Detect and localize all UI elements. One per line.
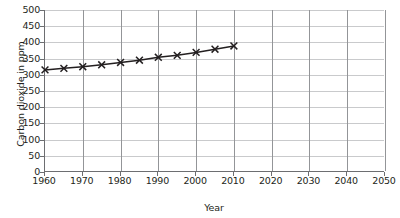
x-axis-tick-mark [82, 172, 83, 176]
y-axis-tick-mark [40, 140, 44, 141]
x-axis-tick-mark [157, 172, 158, 176]
x-axis-tick-mark [233, 172, 234, 176]
y-axis-tick-mark [40, 59, 44, 60]
data-line [45, 46, 234, 70]
x-axis-tick-mark [44, 172, 45, 176]
plot-area [44, 10, 384, 172]
x-axis-tick-mark [120, 172, 121, 176]
y-axis-tick-mark [40, 107, 44, 108]
x-axis-tick-mark [384, 172, 385, 176]
y-axis-tick-mark [40, 42, 44, 43]
data-series-co2 [45, 10, 385, 172]
x-axis-tick-label: 2050 [362, 175, 400, 186]
y-axis-tick-mark [40, 91, 44, 92]
x-axis-tick-mark [271, 172, 272, 176]
y-axis-tick-mark [40, 26, 44, 27]
y-axis-tick-mark [40, 156, 44, 157]
x-axis-tick-mark [308, 172, 309, 176]
y-axis-tick-mark [40, 10, 44, 11]
gridline-vertical [385, 10, 386, 171]
y-axis-tick-label: 350 [0, 53, 40, 64]
x-axis-title: Year [44, 202, 384, 213]
y-axis-tick-mark [40, 123, 44, 124]
y-axis-tick-label: 150 [0, 117, 40, 128]
y-axis-tick-label: 500 [0, 4, 40, 15]
y-axis-tick-label: 300 [0, 69, 40, 80]
y-axis-tick-label: 100 [0, 134, 40, 145]
y-axis-tick-label: 450 [0, 20, 40, 31]
y-axis-tick-label: 50 [0, 150, 40, 161]
y-axis-tick-label: 250 [0, 85, 40, 96]
x-axis-tick-mark [195, 172, 196, 176]
y-axis-tick-mark [40, 75, 44, 76]
y-axis-tick-label: 400 [0, 36, 40, 47]
y-axis-tick-label: 200 [0, 101, 40, 112]
x-axis-tick-mark [346, 172, 347, 176]
data-markers [42, 43, 238, 74]
